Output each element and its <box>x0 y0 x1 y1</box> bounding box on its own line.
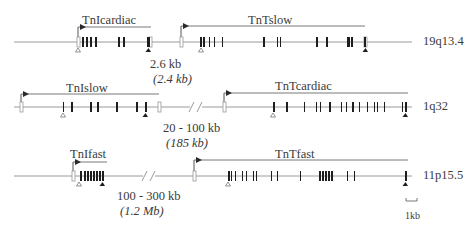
coding-exon <box>242 171 243 181</box>
coding-exon <box>367 102 368 112</box>
gene-label-tntfast: TnTfast <box>275 148 315 161</box>
coding-exon <box>263 37 265 47</box>
coding-exon <box>325 171 327 181</box>
noncoding-exon <box>20 102 23 112</box>
arrow-head-icon <box>23 91 29 97</box>
coding-exon <box>402 102 403 112</box>
coding-exon <box>319 171 321 181</box>
coding-exon <box>256 171 257 181</box>
arrow-head-icon <box>183 23 189 29</box>
coding-exon <box>136 102 138 112</box>
stop-codon-icon <box>403 182 409 186</box>
coding-exon <box>341 102 342 112</box>
coding-exon <box>322 171 324 181</box>
start-codon-icon <box>76 48 81 52</box>
scale-bar-label: 1kb <box>405 211 420 221</box>
coding-exon <box>273 102 275 112</box>
coding-exon <box>374 102 375 112</box>
coding-exon <box>405 102 407 112</box>
stop-codon-icon <box>363 48 369 52</box>
start-codon-icon <box>77 182 82 186</box>
coding-exon <box>93 171 95 181</box>
coding-exon <box>328 171 330 181</box>
coding-exon <box>97 102 99 112</box>
break-mark <box>197 102 202 112</box>
coding-exon <box>203 37 205 47</box>
noncoding-exon <box>158 102 161 112</box>
chromosome-label: 19q13.4 <box>423 35 464 48</box>
coding-exon <box>71 102 73 112</box>
coding-exon <box>246 171 247 181</box>
coding-exon <box>286 102 288 112</box>
coding-exon <box>90 102 92 112</box>
coding-exon <box>228 171 230 181</box>
arrow-head-icon <box>226 90 232 96</box>
coding-exon <box>235 171 236 181</box>
coding-exon <box>209 37 210 47</box>
coding-exon <box>95 37 97 47</box>
coding-exon <box>118 37 120 47</box>
coding-exon <box>359 102 360 112</box>
coding-exon <box>96 171 98 181</box>
coding-exon <box>82 37 84 47</box>
intergenic-distance: 100 - 300 kb <box>117 190 181 203</box>
noncoding-exon <box>77 37 80 47</box>
stop-codon-icon <box>100 182 106 186</box>
break-mark <box>150 171 155 181</box>
coding-exon <box>123 37 125 47</box>
gene-label-tntslow: TnTslow <box>248 14 292 27</box>
coding-exon <box>405 171 407 181</box>
coding-exon <box>86 37 88 47</box>
coding-exon <box>304 102 305 112</box>
coding-exon <box>277 37 278 47</box>
coding-exon <box>320 102 321 112</box>
intergenic-distance-alt: (1.2 Mb) <box>120 205 164 218</box>
gene-label-tnicardiac: TnIcardiac <box>82 14 136 27</box>
intergenic-distance: 20 - 100 kb <box>163 122 220 135</box>
coding-exon <box>347 171 348 181</box>
noncoding-exon <box>193 171 196 181</box>
coding-exon <box>222 37 223 47</box>
coding-exon <box>351 37 353 47</box>
chromosome-label: 11p15.5 <box>423 169 463 182</box>
coding-exon <box>277 171 278 181</box>
noncoding-exon <box>180 37 183 47</box>
coding-exon <box>331 171 333 181</box>
coding-exon <box>253 171 254 181</box>
coding-exon <box>231 171 232 181</box>
coding-exon <box>214 37 215 47</box>
stop-codon-icon <box>403 113 409 117</box>
noncoding-exon <box>72 171 75 181</box>
coding-exon <box>347 37 350 47</box>
coding-exon <box>271 171 272 181</box>
gene-label-tnislow: TnIslow <box>66 82 108 95</box>
chromosome-label: 1q32 <box>423 100 448 113</box>
coding-exon <box>80 171 82 181</box>
coding-exon <box>90 171 92 181</box>
coding-exon <box>354 171 355 181</box>
start-codon-icon <box>271 113 276 117</box>
coding-exon <box>87 171 89 181</box>
coding-exon <box>102 171 104 181</box>
coding-exon <box>326 37 328 47</box>
coding-exon <box>90 37 92 47</box>
stop-codon-icon <box>143 113 149 117</box>
coding-exon <box>329 102 331 112</box>
coding-exon <box>145 102 147 112</box>
intergenic-distance: 2.6 kb <box>150 58 181 71</box>
arrow-head-icon <box>196 157 202 163</box>
coding-exon <box>116 102 118 112</box>
coding-exon <box>63 102 64 112</box>
coding-exon <box>384 102 385 112</box>
coding-exon <box>84 171 86 181</box>
coding-exon <box>200 37 202 47</box>
coding-exon <box>316 102 317 112</box>
intergenic-distance-alt: (185 kb) <box>166 137 208 150</box>
noncoding-exon <box>223 102 226 112</box>
start-codon-icon <box>226 182 231 186</box>
gene-label-tnifast: TnIfast <box>70 148 106 161</box>
coding-exon <box>280 37 281 47</box>
gene-organization-diagram <box>0 0 476 229</box>
coding-exon <box>99 171 101 181</box>
coding-exon <box>147 37 150 47</box>
